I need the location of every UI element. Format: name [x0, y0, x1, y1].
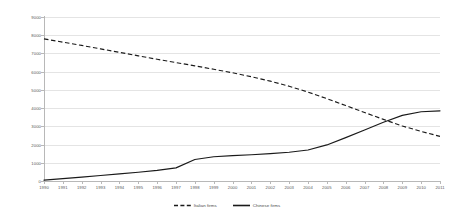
- legend-swatch-dashed: [174, 203, 191, 208]
- line-chart: 0100020003000400050006000700080009000 19…: [0, 0, 454, 217]
- legend-label-italian-firms: Italian firms: [194, 203, 217, 208]
- legend-label-chinese-firms: Chinese firms: [253, 203, 281, 208]
- chart-legend: Italian firms Chinese firms: [0, 198, 454, 212]
- series-line-chinese-firms: [44, 111, 440, 180]
- legend-item-chinese-firms: Chinese firms: [233, 203, 281, 208]
- series-line-italian-firms: [44, 39, 440, 136]
- legend-swatch-solid: [233, 203, 250, 208]
- series-lines: [0, 0, 454, 217]
- legend-item-italian-firms: Italian firms: [174, 203, 217, 208]
